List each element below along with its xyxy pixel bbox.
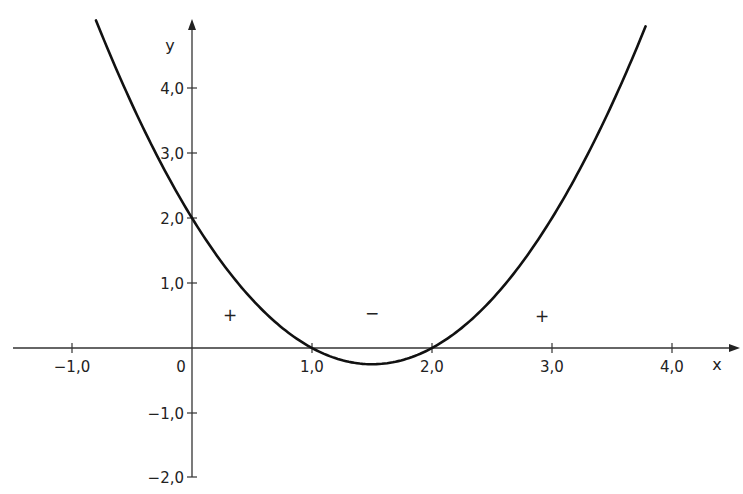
x-tick-label: 2,0 xyxy=(420,358,444,376)
y-tick-label: 3,0 xyxy=(160,145,184,163)
x-axis-label: x xyxy=(712,355,721,374)
x-axis-arrow-icon xyxy=(729,344,740,352)
sign-positive-left: + xyxy=(223,305,237,325)
function-graph: −1,0 0 1,0 2,0 3,0 4,0 x 4,0 3,0 2,0 1,0… xyxy=(0,0,743,494)
y-tick-label: 2,0 xyxy=(160,210,184,228)
y-tick-label: −2,0 xyxy=(148,469,184,487)
x-tick-label: 4,0 xyxy=(660,358,684,376)
y-tick-label: 4,0 xyxy=(160,80,184,98)
y-tick-label: −1,0 xyxy=(148,405,184,423)
sign-positive-right: + xyxy=(535,306,549,326)
sign-negative-middle: − xyxy=(365,303,379,323)
y-axis-label: y xyxy=(165,36,174,55)
origin-label: 0 xyxy=(176,358,186,376)
y-axis-arrow-icon xyxy=(188,19,196,30)
x-tick-label: 3,0 xyxy=(540,358,564,376)
x-tick-label: −1,0 xyxy=(54,358,90,376)
y-tick-label: 1,0 xyxy=(160,275,184,293)
x-tick-label: 1,0 xyxy=(300,358,324,376)
